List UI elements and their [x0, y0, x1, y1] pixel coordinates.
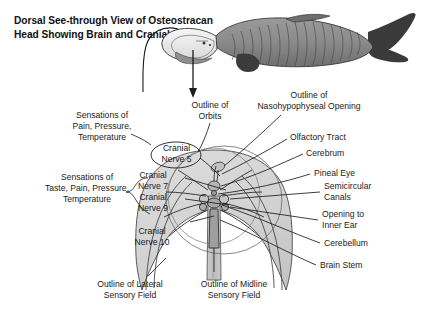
- label-outline-of-orbits: Outline of Orbits: [176, 100, 244, 122]
- label-sensations-pain-pressure-temperature: Sensations of Pain, Pressure, Temperatur…: [60, 110, 144, 144]
- brain-stem-structure: [209, 209, 219, 248]
- inner-ear-opening-left: [199, 203, 206, 210]
- label-cranial-nerve-9: Cranial Nerve 9: [128, 192, 178, 214]
- label-semicircular-canals: Semicircular Canals: [324, 181, 398, 203]
- label-cranial-nerve-10: Cranial Nerve 10: [124, 226, 180, 248]
- label-cerebellum: Cerebellum: [324, 238, 404, 249]
- label-olfactory-tract: Olfactory Tract: [290, 132, 380, 143]
- label-cranial-nerve-7: Cranial Nerve 7: [128, 170, 178, 192]
- label-pineal-eye: Pineal Eye: [314, 168, 384, 179]
- pineal-eye-structure: [211, 190, 216, 195]
- figure-canvas: Dorsal See-through View of Osteostracan …: [0, 0, 429, 313]
- label-cranial-nerve-5: Cranial Nerve 5: [154, 143, 199, 165]
- label-cerebrum: Cerebrum: [306, 148, 376, 159]
- osteostracan-fish-illustration: [143, 13, 416, 92]
- cerebrum-structure: [208, 181, 220, 191]
- label-outline-of-nasohypophyseal-opening: Outline of Nasohypophyseal Opening: [245, 90, 373, 112]
- label-brain-stem: Brain Stem: [320, 260, 400, 271]
- label-opening-to-inner-ear: Opening to Inner Ear: [322, 209, 392, 231]
- label-outline-of-midline-sensory-field: Outline of Midline Sensory Field: [186, 279, 282, 301]
- label-outline-of-lateral-sensory-field: Outline of Lateral Sensory Field: [84, 279, 176, 301]
